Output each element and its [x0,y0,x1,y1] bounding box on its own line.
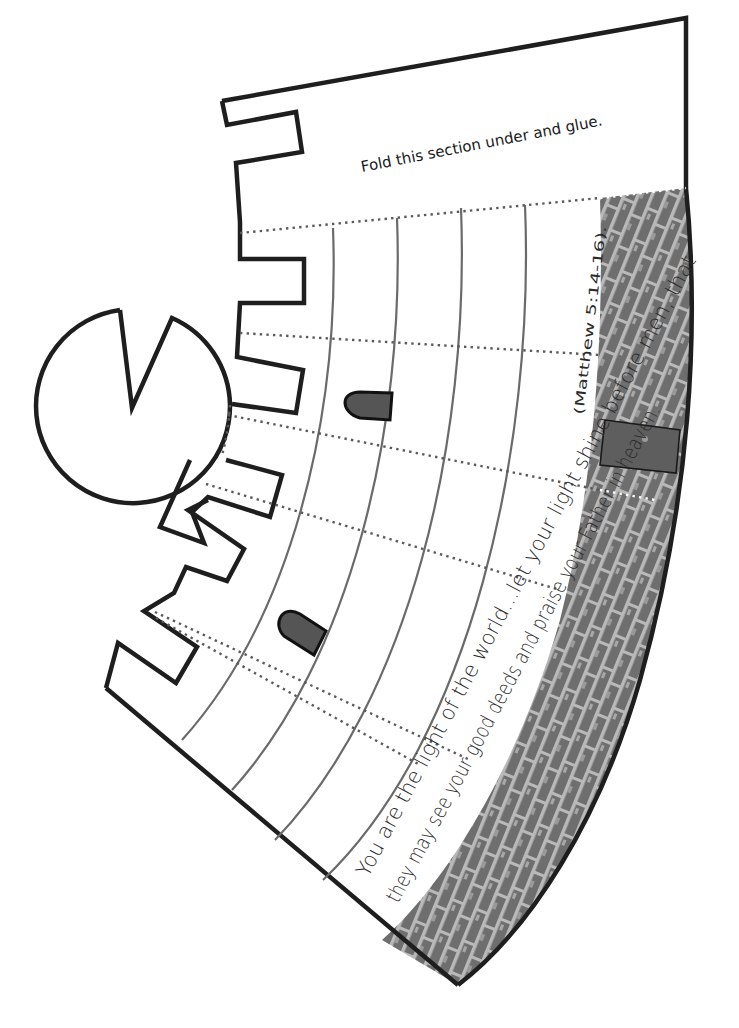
tower-bottom-edge [106,688,458,985]
glue-flap-instruction: Fold this section under and glue. [359,111,603,176]
battlements-outline [222,101,304,413]
glue-flap: Fold this section under and glue. [222,18,686,188]
glue-flap-outline [222,18,686,188]
tower-window-lower [279,611,326,655]
roof-circle-piece [36,310,230,503]
tower-window-upper [345,392,392,420]
craft-template-sheet: Fold this section under and glue. [0,0,739,1028]
battlements-outline-bottom [106,500,244,688]
